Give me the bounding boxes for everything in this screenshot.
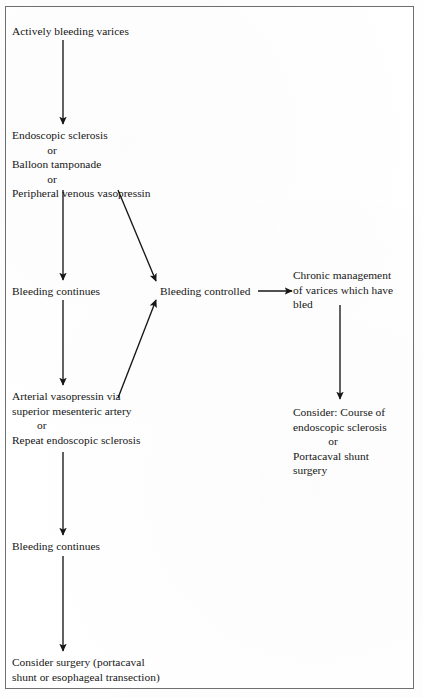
node-consider-course-line-3: Portacaval shunt — [293, 449, 387, 464]
node-salvage-therapy-line-0: Arterial vasopressin via — [12, 389, 140, 404]
node-consider-surgery: Consider surgery (portacavalshunt or eso… — [12, 655, 160, 684]
node-salvage-therapy-line-3: Repeat endoscopic sclerosis — [12, 433, 140, 448]
node-bleeding-continues-first-line-0: Bleeding continues — [12, 284, 100, 299]
node-bleeding-continues-first: Bleeding continues — [12, 284, 100, 299]
node-consider-course: Consider: Course ofendoscopic sclerosiso… — [293, 405, 387, 478]
node-bleeding-continues-second: Bleeding continues — [12, 539, 100, 554]
node-initial-therapy-line-0: Endoscopic sclerosis — [12, 128, 151, 143]
node-bleeding-controlled: Bleeding controlled — [160, 284, 251, 299]
node-consider-surgery-line-1: shunt or esophageal transection) — [12, 670, 160, 685]
node-consider-course-line-4: surgery — [293, 463, 387, 478]
node-chronic-management: Chronic managementof varices which haveb… — [293, 268, 393, 312]
node-actively-bleeding-varices: Actively bleeding varices — [12, 24, 129, 39]
node-bleeding-controlled-line-0: Bleeding controlled — [160, 284, 251, 299]
node-initial-therapy-line-4: Peripheral venous vasopressin — [12, 186, 151, 201]
node-initial-therapy: Endoscopic sclerosisorBalloon tamponadeo… — [12, 128, 151, 201]
node-initial-therapy-line-2: Balloon tamponade — [12, 157, 151, 172]
node-consider-surgery-line-0: Consider surgery (portacaval — [12, 655, 160, 670]
node-chronic-management-line-0: Chronic management — [293, 268, 393, 283]
node-salvage-therapy-line-1: superior mesenteric artery — [12, 404, 140, 419]
figure-page: Actively bleeding varicesEndoscopic scle… — [0, 0, 423, 698]
node-actively-bleeding-varices-line-0: Actively bleeding varices — [12, 24, 129, 39]
node-consider-course-line-0: Consider: Course of — [293, 405, 387, 420]
figure-frame — [5, 6, 414, 689]
node-bleeding-continues-second-line-0: Bleeding continues — [12, 539, 100, 554]
node-initial-therapy-line-1: or — [12, 143, 151, 158]
node-salvage-therapy: Arterial vasopressin viasuperior mesente… — [12, 389, 140, 447]
node-consider-course-line-2: or — [293, 434, 387, 449]
node-salvage-therapy-line-2: or — [12, 418, 140, 433]
node-chronic-management-line-2: bled — [293, 297, 393, 312]
node-chronic-management-line-1: of varices which have — [293, 283, 393, 298]
node-initial-therapy-line-3: or — [12, 172, 151, 187]
node-consider-course-line-1: endoscopic sclerosis — [293, 420, 387, 435]
